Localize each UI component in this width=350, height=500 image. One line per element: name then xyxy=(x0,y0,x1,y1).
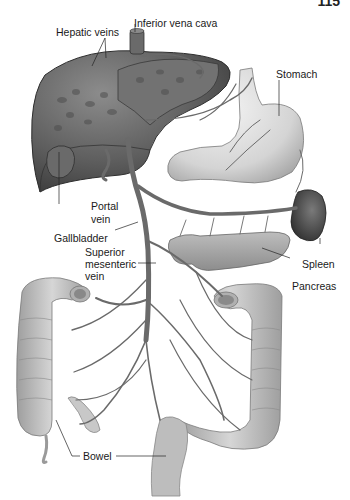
label-pancreas: Pancreas xyxy=(292,280,336,292)
label-superior-mesenteric-vein-1: Superior xyxy=(85,246,125,258)
label-stomach: Stomach xyxy=(276,68,317,80)
label-superior-mesenteric-vein-3: vein xyxy=(85,270,104,282)
spleen xyxy=(291,190,326,241)
label-portal-vein-1: Portal xyxy=(91,200,118,212)
label-gallbladder: Gallbladder xyxy=(54,232,108,244)
label-bowel: Bowel xyxy=(83,450,112,462)
label-inferior-vena-cava: Inferior vena cava xyxy=(134,17,217,29)
label-hepatic-veins: Hepatic veins xyxy=(56,26,119,38)
label-superior-mesenteric-vein-2: mesenteric xyxy=(85,258,136,270)
label-portal-vein-2: vein xyxy=(91,213,110,225)
descending-colon xyxy=(151,284,282,496)
ascending-colon xyxy=(17,278,100,463)
label-spleen: Spleen xyxy=(302,258,335,270)
